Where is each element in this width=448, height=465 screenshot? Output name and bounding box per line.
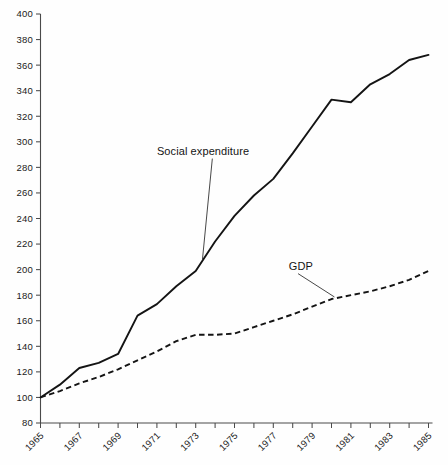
y-tick-label: 400 (17, 8, 33, 19)
y-tick-label: 180 (17, 290, 33, 301)
x-tick-label: 1973 (178, 430, 201, 453)
y-tick-label: 340 (17, 85, 33, 96)
y-tick-label: 280 (17, 162, 33, 173)
y-tick-label: 360 (17, 60, 33, 71)
x-tick-label: 1985 (411, 430, 434, 453)
x-tick-label: 1965 (23, 430, 46, 453)
y-tick-label: 300 (17, 136, 33, 147)
series-line-gdp (41, 271, 429, 398)
y-tick-label: 260 (17, 187, 33, 198)
chart-container: 8010012014016018020022024026028030032034… (0, 0, 448, 465)
y-tick-label: 380 (17, 34, 33, 45)
x-tick-label: 1981 (333, 430, 356, 453)
leader-line (298, 274, 334, 297)
y-tick-label: 140 (17, 341, 33, 352)
leader-line (202, 159, 212, 260)
series-lines (41, 55, 429, 398)
x-tick-label: 1977 (255, 430, 278, 453)
y-tick-label: 200 (17, 264, 33, 275)
x-tick-label: 1975 (217, 430, 240, 453)
series-label: Social expenditure (157, 145, 249, 157)
x-tick-label: 1969 (100, 430, 123, 453)
y-tick-label: 120 (17, 366, 33, 377)
x-tick-label: 1967 (61, 430, 84, 453)
y-tick-label: 240 (17, 213, 33, 224)
y-axis: 8010012014016018020022024026028030032034… (17, 8, 41, 428)
y-tick-label: 100 (17, 392, 33, 403)
x-tick-label: 1971 (139, 430, 162, 453)
y-tick-label: 80 (22, 417, 33, 428)
y-tick-label: 220 (17, 238, 33, 249)
line-chart: 8010012014016018020022024026028030032034… (0, 0, 448, 465)
y-tick-label: 320 (17, 111, 33, 122)
x-tick-label: 1979 (294, 430, 317, 453)
series-label: GDP (289, 260, 313, 272)
y-tick-label: 160 (17, 315, 33, 326)
x-axis: 1965196719691971197319751977197919811983… (23, 423, 434, 453)
series-annotations: Social expenditureGDP (157, 145, 335, 297)
x-tick-label: 1983 (372, 430, 395, 453)
series-line-social-expenditure (41, 55, 429, 398)
